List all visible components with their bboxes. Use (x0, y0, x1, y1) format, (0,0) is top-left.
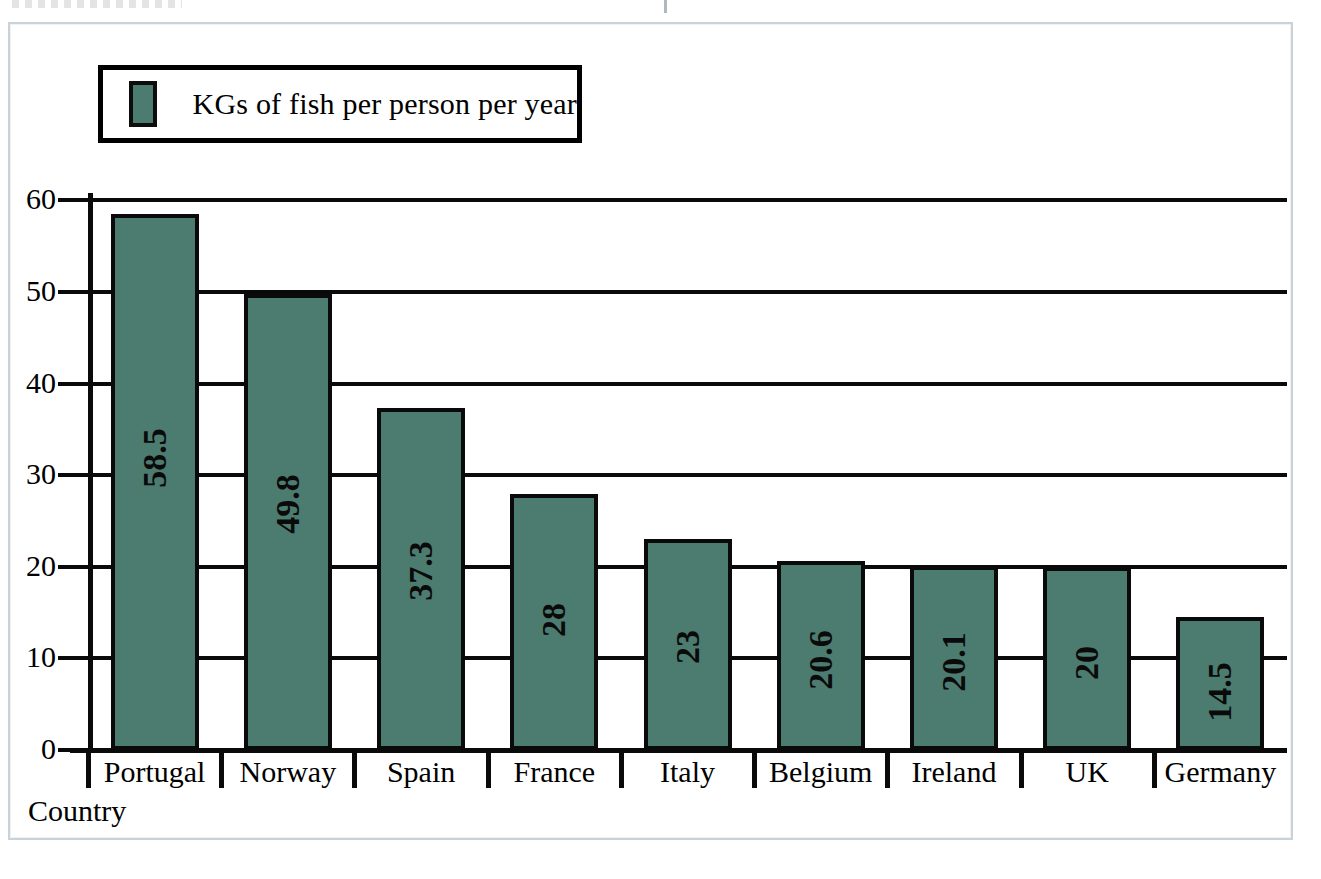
bar-value-label: 20.1 (937, 632, 971, 692)
chart-plot-area: 58.549.837.3282320.620.12014.5 (88, 193, 1287, 750)
bar-value-label: 37.3 (404, 541, 438, 601)
x-axis-category-label: Germany (1154, 757, 1287, 787)
bar-value-label: 28 (537, 603, 571, 637)
y-axis-labels: 6050403020100 (0, 0, 56, 879)
bar-slot: 23 (644, 193, 732, 750)
bar[interactable]: 49.8 (244, 294, 332, 750)
x-axis-category-label: UK (1021, 757, 1154, 787)
y-axis-tick (58, 198, 88, 202)
bar[interactable]: 37.3 (377, 408, 465, 750)
bar[interactable]: 20.6 (777, 561, 865, 750)
legend-label: KGs of fish per person per year (193, 89, 577, 119)
scan-artifact-tick-mark (664, 0, 667, 13)
bar-value-label: 23 (671, 630, 705, 664)
x-axis-category-label: France (488, 757, 621, 787)
bar-value-label: 14.5 (1203, 662, 1237, 722)
y-axis-tick (58, 656, 88, 660)
x-axis-category-label: Italy (621, 757, 754, 787)
x-axis-category-label: Belgium (754, 757, 887, 787)
legend-color-swatch (129, 81, 157, 127)
bar-slot: 20.1 (910, 193, 998, 750)
bar[interactable]: 20 (1043, 567, 1131, 750)
bar-slot: 20.6 (777, 193, 865, 750)
bar-slot: 20 (1043, 193, 1131, 750)
bar-slot: 28 (510, 193, 598, 750)
x-axis-separator-tick (86, 752, 91, 788)
y-axis-tick-label: 10 (4, 642, 56, 672)
x-axis-line (70, 748, 1287, 753)
y-axis-tick (58, 473, 88, 477)
bar-value-label: 58.5 (138, 428, 172, 488)
y-axis-tick (58, 290, 88, 294)
bar[interactable]: 58.5 (111, 214, 199, 750)
x-axis-title: Country (28, 796, 126, 826)
chart-legend: KGs of fish per person per year (98, 65, 582, 143)
y-axis-tick-label: 60 (4, 184, 56, 214)
x-axis-category-label: Ireland (887, 757, 1020, 787)
y-axis-tick-label: 40 (4, 368, 56, 398)
bar-value-label: 20 (1070, 646, 1104, 680)
y-axis-tick (58, 382, 88, 386)
y-axis-tick-label: 20 (4, 551, 56, 581)
x-axis-category-label: Spain (354, 757, 487, 787)
bar-slot: 14.5 (1176, 193, 1264, 750)
y-axis-line (88, 193, 93, 753)
y-axis-tick-label: 30 (4, 459, 56, 489)
bar[interactable]: 23 (644, 539, 732, 750)
bar[interactable]: 28 (510, 494, 598, 751)
bar[interactable]: 20.1 (910, 566, 998, 750)
bar-value-label: 20.6 (804, 630, 838, 690)
bar-slot: 58.5 (111, 193, 199, 750)
bar-slot: 37.3 (377, 193, 465, 750)
x-axis-category-label: Portugal (88, 757, 221, 787)
bar-value-label: 49.8 (271, 475, 305, 535)
x-axis-category-label: Norway (221, 757, 354, 787)
bar[interactable]: 14.5 (1176, 617, 1264, 750)
bar-slot: 49.8 (244, 193, 332, 750)
y-axis-tick (58, 565, 88, 569)
y-axis-tick-label: 0 (4, 734, 56, 764)
y-axis-tick-label: 50 (4, 276, 56, 306)
